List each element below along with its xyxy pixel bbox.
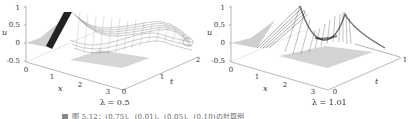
u-tick: 0.5 <box>214 21 225 29</box>
x-tick: 2 <box>78 81 82 89</box>
x-tick: 1 <box>255 73 259 81</box>
t-tick: 0 <box>333 88 337 96</box>
x-tick: 1 <box>50 73 54 81</box>
u-tick: 0 <box>16 39 20 47</box>
u-tick: 0.5 <box>9 21 20 29</box>
u-tick: -0.5 <box>7 57 21 65</box>
t-axis-label: t <box>375 77 379 86</box>
x-tick: 0 <box>229 66 233 74</box>
x-tick: 3 <box>311 88 315 96</box>
x-tick: 2 <box>283 81 287 89</box>
x-axis-label: x <box>263 84 268 93</box>
plot-panel-left: 1 0.5 0 -0.5 u 0 1 2 3 x 0 1 2 t <box>0 0 205 105</box>
t-axis-label: t <box>170 77 174 86</box>
u-tick: 1 <box>16 4 20 12</box>
u-tick: 1 <box>221 4 225 12</box>
surface-plot-right: 1 0.5 0 -0.5 u 0 1 2 3 x 0 1 t <box>205 0 410 105</box>
u-tick: 0 <box>221 39 225 47</box>
plot-panel-right: 1 0.5 0 -0.5 u 0 1 2 3 x 0 1 t <box>205 0 410 105</box>
t-tick: 1 <box>160 73 164 81</box>
x-axis-label: x <box>58 84 63 93</box>
subplot-label-left: λ = 0.5 <box>100 98 130 107</box>
t-tick: 0 <box>122 88 126 96</box>
subplot-label-right: λ = 1.01 <box>312 98 347 107</box>
caption-marker-icon <box>62 114 68 119</box>
surface-plot-left: 1 0.5 0 -0.5 u 0 1 2 3 x 0 1 2 t <box>0 0 205 105</box>
u-axis-label: u <box>207 28 212 37</box>
caption-text: 图 5.12：(0.75)、(0.01)、(0.05)、(0.10)の計算例 <box>72 113 245 119</box>
x-tick: 3 <box>106 88 110 96</box>
t-tick: 1 <box>403 56 407 64</box>
t-tick: 2 <box>196 56 200 64</box>
figure-caption: 图 5.12：(0.75)、(0.01)、(0.05)、(0.10)の計算例 <box>62 111 245 119</box>
x-tick: 0 <box>24 66 28 74</box>
u-axis-label: u <box>2 28 7 37</box>
u-tick: -0.5 <box>212 57 226 65</box>
